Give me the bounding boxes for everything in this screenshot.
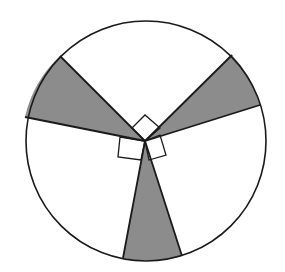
- circle-sector-diagram: [0, 0, 285, 272]
- shaded-sector-upper-right: [145, 55, 260, 141]
